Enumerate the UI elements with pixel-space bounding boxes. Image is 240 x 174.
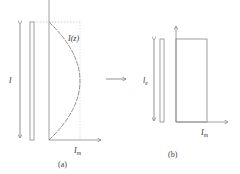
antenna-current-diagram: l I(z) Im (a) le Im (b) xyxy=(0,0,240,174)
axis-label-b: Im xyxy=(200,128,209,138)
caption-a: (a) xyxy=(58,160,67,169)
axis-label-a: Im xyxy=(73,146,82,156)
current-label: I(z) xyxy=(67,34,79,43)
uniform-current-rect xyxy=(176,39,207,122)
length-label-b: le xyxy=(143,76,148,86)
antenna-a xyxy=(30,22,34,140)
caption-b: (b) xyxy=(168,150,178,159)
panel-b: le Im (b) xyxy=(143,26,228,159)
length-label-a: l xyxy=(9,75,12,85)
antenna-b xyxy=(160,39,164,122)
panel-a: l I(z) Im (a) xyxy=(9,0,101,169)
